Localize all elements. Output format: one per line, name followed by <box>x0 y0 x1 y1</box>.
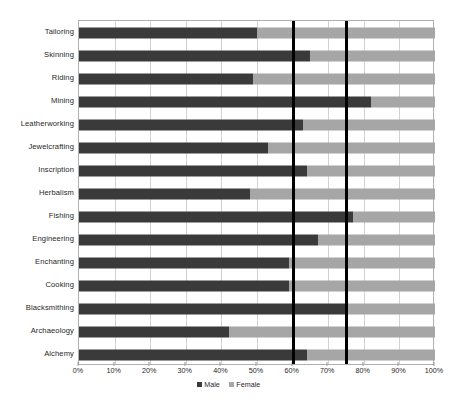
chart-legend: MaleFemale <box>0 380 457 389</box>
stacked-bar <box>79 142 435 153</box>
bar-segment-male <box>79 119 303 130</box>
legend-item-male[interactable]: Male <box>197 380 220 389</box>
bar-segment-male <box>79 73 253 84</box>
bar-segment-male <box>79 211 353 222</box>
category-label-inscription: Inscription <box>0 165 74 174</box>
x-tick-label-50: 50% <box>249 366 263 375</box>
stacked-bar <box>79 349 435 360</box>
bar-segment-male <box>79 257 289 268</box>
bar-segment-male <box>79 188 250 199</box>
stacked-bar <box>79 119 435 130</box>
legend-item-female[interactable]: Female <box>229 380 260 389</box>
x-tick-label-0: 0% <box>73 366 83 375</box>
x-tick-label-60: 60% <box>284 366 298 375</box>
bar-segment-female <box>307 349 435 360</box>
bar-segment-male <box>79 50 310 61</box>
bar-segment-female <box>289 257 435 268</box>
bar-row <box>79 113 433 136</box>
bar-row <box>79 228 433 251</box>
x-tick-label-80: 80% <box>356 366 370 375</box>
bar-row <box>79 320 433 343</box>
bar-segment-male <box>79 234 318 245</box>
bar-segment-female <box>289 280 435 291</box>
legend-label: Female <box>236 380 260 389</box>
bar-segment-female <box>229 326 435 337</box>
legend-label: Male <box>204 380 220 389</box>
x-tick-label-40: 40% <box>213 366 227 375</box>
bar-segment-male <box>79 280 289 291</box>
bar-segment-male <box>79 165 307 176</box>
category-label-herbalism: Herbalism <box>0 188 74 197</box>
category-label-cooking: Cooking <box>0 280 74 289</box>
stacked-bar <box>79 165 435 176</box>
bar-row <box>79 44 433 67</box>
category-label-mining: Mining <box>0 96 74 105</box>
stacked-bar <box>79 280 435 291</box>
stacked-bar <box>79 211 435 222</box>
stacked-bar <box>79 234 435 245</box>
bar-segment-female <box>307 165 435 176</box>
bar-segment-female <box>318 234 435 245</box>
bar-row <box>79 21 433 44</box>
reference-line-60 <box>292 21 295 364</box>
bar-row <box>79 182 433 205</box>
legend-swatch-male <box>197 382 202 387</box>
category-label-blacksmithing: Blacksmithing <box>0 303 74 312</box>
bar-segment-female <box>310 50 435 61</box>
category-label-skinning: Skinning <box>0 50 74 59</box>
bar-segment-female <box>303 119 435 130</box>
x-tick-label-10: 10% <box>106 366 120 375</box>
category-label-enchanting: Enchanting <box>0 257 74 266</box>
bar-segment-female <box>250 188 435 199</box>
category-label-engineering: Engineering <box>0 234 74 243</box>
category-label-jewelcrafting: Jewelcrafting <box>0 142 74 151</box>
category-label-alchemy: Alchemy <box>0 349 74 358</box>
x-tick-label-90: 90% <box>391 366 405 375</box>
stacked-bar <box>79 257 435 268</box>
bar-rows <box>79 21 433 364</box>
bar-row <box>79 136 433 159</box>
stacked-bar <box>79 50 435 61</box>
stacked-bar <box>79 73 435 84</box>
bar-row <box>79 90 433 113</box>
stacked-bar <box>79 303 435 314</box>
bar-row <box>79 274 433 297</box>
bar-row <box>79 343 433 366</box>
bar-segment-female <box>346 303 435 314</box>
bar-row <box>79 159 433 182</box>
bar-row <box>79 297 433 320</box>
plot-area <box>78 20 434 365</box>
stacked-bar-chart: TailoringSkinningRidingMiningLeatherwork… <box>0 0 457 405</box>
bar-segment-male <box>79 349 307 360</box>
bar-row <box>79 205 433 228</box>
category-label-tailoring: Tailoring <box>0 27 74 36</box>
bar-segment-male <box>79 96 371 107</box>
category-label-leatherworking: Leatherworking <box>0 119 74 128</box>
x-axis: 0%10%20%30%40%50%60%70%80%90%100% <box>78 366 434 380</box>
bar-segment-female <box>353 211 435 222</box>
reference-line-75 <box>345 21 348 364</box>
x-tick-label-100: 100% <box>425 366 443 375</box>
legend-swatch-female <box>229 382 234 387</box>
plot-wrapper: TailoringSkinningRidingMiningLeatherwork… <box>0 0 457 372</box>
stacked-bar <box>79 326 435 337</box>
stacked-bar <box>79 188 435 199</box>
x-tick-label-20: 20% <box>142 366 156 375</box>
stacked-bar <box>79 27 435 38</box>
stacked-bar <box>79 96 435 107</box>
category-label-fishing: Fishing <box>0 211 74 220</box>
bar-segment-male <box>79 303 346 314</box>
bar-row <box>79 251 433 274</box>
bar-segment-female <box>371 96 435 107</box>
x-tick-label-70: 70% <box>320 366 334 375</box>
category-label-riding: Riding <box>0 73 74 82</box>
bar-segment-male <box>79 142 268 153</box>
bar-segment-male <box>79 27 257 38</box>
bar-row <box>79 67 433 90</box>
bar-segment-male <box>79 326 229 337</box>
category-label-archaeology: Archaeology <box>0 326 74 335</box>
x-tick-label-30: 30% <box>178 366 192 375</box>
